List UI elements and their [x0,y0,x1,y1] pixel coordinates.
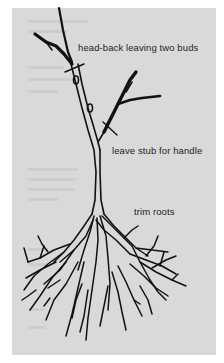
right-branch [104,72,160,132]
leader-branch [35,8,72,64]
trunk [71,64,108,214]
label-trim-roots: trim roots [134,206,175,217]
root-system [22,214,186,340]
label-leave-stub: leave stub for handle [112,145,202,156]
bud-lower [88,104,93,112]
label-head-back: head-back leaving two buds [78,42,198,53]
head-back-cut-mark [65,64,84,72]
tree-pruning-illustration [0,0,224,363]
